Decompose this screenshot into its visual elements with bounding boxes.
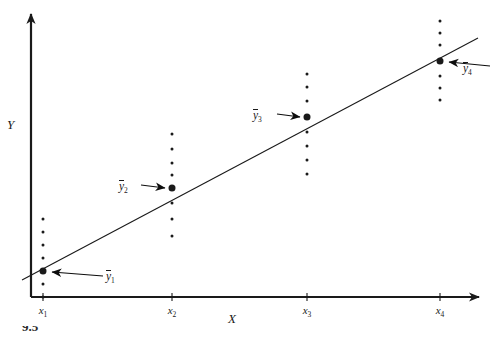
data-point — [306, 173, 309, 176]
figure-caption-clipped: 9.5 — [22, 326, 222, 338]
data-point — [439, 44, 442, 47]
data-point — [171, 148, 174, 151]
data-point — [439, 87, 442, 90]
mean-point-x4 — [437, 58, 444, 65]
data-point — [42, 283, 45, 286]
data-point — [439, 32, 442, 35]
mean-label-x3: y3 — [253, 109, 262, 124]
data-point — [42, 218, 45, 221]
data-point — [306, 131, 309, 134]
data-point — [306, 159, 309, 162]
data-point — [171, 174, 174, 177]
x-tick-label-x4: x4 — [436, 304, 445, 319]
x-tick-label-x3: x3 — [303, 304, 312, 319]
x-tick-label-x1: x1 — [39, 304, 48, 319]
mean-label-x4: y4 — [463, 62, 472, 77]
data-point — [306, 100, 309, 103]
annotation-arrows-group — [52, 62, 490, 276]
plot-canvas — [0, 0, 491, 338]
data-point — [171, 218, 174, 221]
data-point — [306, 73, 309, 76]
data-point — [171, 235, 174, 238]
regression-line-group — [22, 38, 478, 280]
mean-point-x1 — [40, 268, 47, 275]
data-point — [171, 133, 174, 136]
x-axis-label: X — [228, 311, 236, 327]
mean-label-x2: y2 — [119, 180, 128, 195]
data-point — [42, 257, 45, 260]
x-tick-label-x2: x2 — [168, 304, 177, 319]
annotation-arrow-x2 — [141, 185, 165, 188]
mean-point-x3 — [304, 114, 311, 121]
figure-caption-text: 9.5 — [22, 326, 38, 335]
data-point — [439, 20, 442, 23]
data-point — [439, 99, 442, 102]
regression-scatter-figure: Y X x1x2x3x4 y1y2y3y4 9.5 — [0, 0, 491, 338]
annotation-arrow-x3 — [277, 114, 300, 117]
y-axis-label: Y — [7, 117, 14, 133]
data-point — [306, 145, 309, 148]
data-point — [42, 231, 45, 234]
data-points-group — [40, 20, 444, 299]
annotation-arrow-x1 — [52, 272, 103, 276]
data-point — [171, 202, 174, 205]
data-point — [439, 75, 442, 78]
axes-group — [31, 14, 479, 297]
data-point — [42, 296, 45, 299]
regression-line — [22, 38, 478, 280]
data-point — [306, 86, 309, 89]
mean-point-x2 — [169, 185, 176, 192]
data-point — [171, 162, 174, 165]
mean-label-x1: y1 — [106, 270, 115, 285]
data-point — [42, 244, 45, 247]
